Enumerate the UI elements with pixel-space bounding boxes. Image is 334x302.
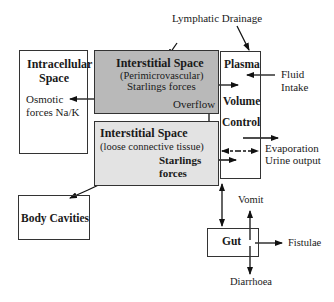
osmotic-label-2: forces Na/K xyxy=(26,106,79,119)
control-label: Control xyxy=(222,116,260,129)
fistulae-label: Fistulae xyxy=(288,237,321,249)
fluid-intake-label-1: Fluid xyxy=(281,68,304,81)
volume-label: Volume xyxy=(223,95,260,108)
interstitial-upper-title: Interstitial Space xyxy=(116,57,204,71)
evaporation-label: Evaporation xyxy=(265,142,319,155)
interstitial-lower-title: Interstitial Space xyxy=(100,127,188,141)
gut-label: Gut xyxy=(222,235,241,248)
body-cavities-label: Body Cavities xyxy=(21,212,89,225)
interstitial-lower-subtitle: (loose connective tissue) xyxy=(100,141,204,153)
diarrhoea-label: Diarrhoea xyxy=(230,276,272,288)
lymphatic-drainage-label: Lymphatic Drainage xyxy=(172,12,262,25)
vomit-label: Vomit xyxy=(238,194,263,206)
starlings-lower-label-1: Starlings xyxy=(159,154,201,167)
urine-output-label: Urine output xyxy=(265,154,321,167)
plasma-label: Plasma xyxy=(224,58,260,71)
starlings-lower-label-2: forces xyxy=(159,167,187,180)
overflow-label: Overflow xyxy=(173,98,215,111)
intracellular-title-2: Space xyxy=(39,72,69,86)
starlings-upper-label: Starlings forces xyxy=(127,80,196,93)
osmotic-label-1: Osmotic xyxy=(26,93,63,106)
arrow-lymphatic-in xyxy=(237,26,249,50)
intracellular-title-1: Intracellular xyxy=(27,58,92,72)
fluid-intake-label-2: Intake xyxy=(281,81,308,94)
